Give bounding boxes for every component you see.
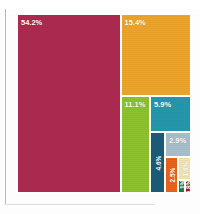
treemap-chart: 54.2%15.4%11.1%5.9%4.6%2.9%2.5%1.6%1.1%0… xyxy=(17,14,191,193)
treemap-cell[interactable]: 4.6% xyxy=(150,132,165,193)
treemap-cell-label: 4.6% xyxy=(154,155,161,170)
treemap-cell-label: 54.2% xyxy=(21,18,42,27)
chart-title-strip: SPENDING BY PRIMARY/KEY CATEGORY xyxy=(0,0,200,9)
treemap-cell[interactable]: 2.5% xyxy=(165,157,178,193)
treemap-cell[interactable]: 1.1% xyxy=(178,180,185,193)
treemap-cell-label: 2.9% xyxy=(169,136,186,145)
treemap-cell[interactable]: 0.8% xyxy=(185,180,191,193)
treemap-cell-label: 5.9% xyxy=(154,100,171,109)
left-axis-rule xyxy=(5,9,6,205)
treemap-cell-label: 1.6% xyxy=(181,161,188,176)
treemap-cell-label: 1.1% xyxy=(178,180,185,193)
treemap-cell-label: 0.8% xyxy=(185,180,191,193)
treemap-cell[interactable]: 2.9% xyxy=(165,132,191,157)
page-title: SPENDING BY PRIMARY/KEY CATEGORY xyxy=(9,0,184,2)
texture-overlay xyxy=(122,97,150,192)
treemap-cell[interactable]: 15.4% xyxy=(121,14,192,96)
treemap-cell[interactable]: 54.2% xyxy=(17,14,121,193)
treemap-cell-label: 15.4% xyxy=(125,18,146,27)
bottom-rule xyxy=(5,204,155,205)
chart-page: SPENDING BY PRIMARY/KEY CATEGORY 54.2%15… xyxy=(0,0,200,214)
treemap-cell[interactable]: 1.6% xyxy=(178,157,191,180)
treemap-cell-label: 2.5% xyxy=(168,168,175,183)
treemap-cell-label: 11.1% xyxy=(125,100,146,109)
treemap-cell[interactable]: 11.1% xyxy=(121,96,151,193)
treemap-cell[interactable]: 5.9% xyxy=(150,96,191,132)
texture-overlay xyxy=(18,15,120,192)
texture-overlay xyxy=(122,15,191,95)
